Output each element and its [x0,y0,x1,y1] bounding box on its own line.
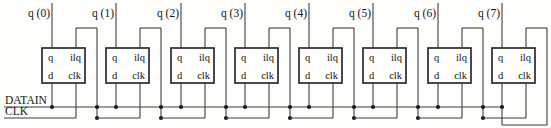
pin-label-q: q [305,52,311,63]
pin-label-d: d [112,70,118,81]
junction-dot-ilq-rail [95,105,99,109]
q-output-label: q (4) [285,7,307,20]
junction-dot-d [307,105,311,109]
junction-dot-ilq-rail [288,105,292,109]
q-output-label: q (7) [478,7,500,20]
pin-label-ilq: ilq [263,52,275,63]
pin-label-clk: clk [261,70,275,81]
clk-label: CLK [5,105,29,117]
pin-label-q: q [434,52,440,63]
junction-dot-d [114,105,118,109]
pin-label-d: d [177,70,183,81]
pin-label-q: q [177,52,183,63]
pin-label-ilq: ilq [327,52,339,63]
q-output-label: q (5) [349,7,371,20]
q-output-label: q (0) [28,7,50,20]
pin-label-clk: clk [389,70,403,81]
pin-label-ilq: ilq [391,52,403,63]
pin-label-q: q [48,52,54,63]
junction-dot-ilq-rail [224,105,228,109]
junction-dot-d [50,105,54,109]
pin-label-d: d [305,70,311,81]
pin-label-ilq: ilq [134,52,146,63]
q-output-label: q (2) [157,7,179,20]
pin-label-q: q [112,52,118,63]
q-output-label: q (6) [414,7,436,20]
junction-dot-d [179,105,183,109]
pin-label-d: d [498,70,504,81]
junction-dot-ilq-rail [159,105,163,109]
shift-register-schematic: q (0)qilqdclkq (1)qilqdclkq (2)qilqdclkq… [0,0,551,128]
pin-label-clk: clk [197,70,211,81]
pin-label-d: d [369,70,375,81]
pin-label-d: d [241,70,247,81]
pin-label-clk: clk [68,70,82,81]
pin-label-clk: clk [132,70,146,81]
junction-dot-ilq-rail [481,105,485,109]
pin-label-ilq: ilq [520,52,532,63]
pin-label-ilq: ilq [199,52,211,63]
junction-dot-d [500,105,504,109]
junction-dot-d [371,105,375,109]
pin-label-d: d [48,70,54,81]
q-output-label: q (1) [92,7,114,20]
schematic-canvas: q (0)qilqdclkq (1)qilqdclkq (2)qilqdclkq… [0,0,551,128]
pin-label-d: d [434,70,440,81]
junction-dot-ilq-rail [352,105,356,109]
pin-label-clk: clk [454,70,468,81]
pin-label-clk: clk [325,70,339,81]
q-output-label: q (3) [221,7,243,20]
pin-label-q: q [241,52,247,63]
pin-label-q: q [369,52,375,63]
pin-label-ilq: ilq [456,52,468,63]
pin-label-ilq: ilq [70,52,82,63]
pin-label-clk: clk [518,70,532,81]
junction-dot-d [436,105,440,109]
junction-dot-ilq-rail [416,105,420,109]
junction-dot-d [243,105,247,109]
pin-label-q: q [498,52,504,63]
